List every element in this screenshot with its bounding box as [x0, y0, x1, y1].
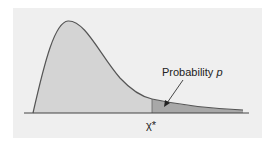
annotation-arrow	[167, 80, 183, 103]
chi-square-curve	[0, 0, 271, 141]
probability-label: Probability p	[162, 66, 223, 78]
body-area	[33, 21, 152, 113]
critical-value-label: χ*	[146, 119, 156, 131]
